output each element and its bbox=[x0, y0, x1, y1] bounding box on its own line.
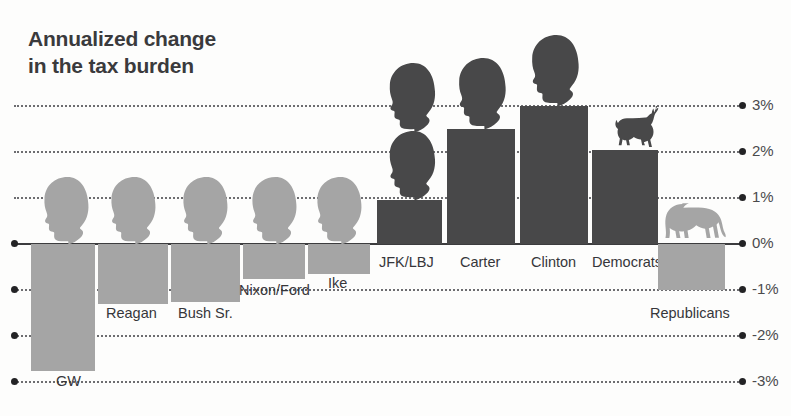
bar-label-nixon-ford: Nixon/Ford bbox=[239, 282, 310, 298]
bar-republicans[interactable] bbox=[658, 244, 725, 290]
bar-label-reagan: Reagan bbox=[106, 305, 157, 321]
bar-label-jfk-lbj: JFK/LBJ bbox=[379, 254, 434, 270]
bar-label-gw: GW bbox=[56, 373, 81, 389]
axis-tick-dot bbox=[739, 332, 746, 339]
axis-tick-dot bbox=[739, 102, 746, 109]
bar-ike[interactable] bbox=[308, 244, 370, 274]
axis-label-5: -2% bbox=[752, 326, 779, 343]
axis-label-4: -1% bbox=[752, 280, 779, 297]
axis-label-0: 3% bbox=[752, 96, 774, 113]
bar-label-democrats: Democrats bbox=[592, 254, 662, 270]
bar-clinton[interactable] bbox=[520, 106, 588, 244]
bar-democrats[interactable] bbox=[592, 150, 658, 244]
plot-area: 3%2%1%0%-1%-2%-3%GWReaganBush Sr.Nixon/F… bbox=[0, 0, 791, 416]
head-silhouette-reagan bbox=[105, 176, 163, 246]
head-silhouette-lbj bbox=[383, 62, 443, 134]
axis-tick-dot bbox=[739, 240, 746, 247]
tax-burden-chart: Annualized change in the tax burden 3%2%… bbox=[0, 0, 791, 416]
donkey-icon bbox=[613, 106, 667, 150]
bar-label-bush-sr: Bush Sr. bbox=[178, 305, 233, 321]
axis-tick-dot bbox=[739, 194, 746, 201]
axis-origin-dot bbox=[11, 240, 18, 247]
bar-bush-sr[interactable] bbox=[171, 244, 240, 302]
bar-nixon-ford[interactable] bbox=[243, 244, 305, 279]
axis-label-2: 1% bbox=[752, 188, 774, 205]
gridline-minus2pct bbox=[14, 335, 742, 337]
axis-tick-dot bbox=[739, 148, 746, 155]
bar-gw[interactable] bbox=[31, 244, 95, 371]
bar-jfk-lbj[interactable] bbox=[377, 200, 442, 244]
bar-label-clinton: Clinton bbox=[531, 254, 576, 270]
bar-label-republicans: Republicans bbox=[650, 305, 730, 321]
head-silhouette-ike bbox=[311, 176, 369, 246]
elephant-icon bbox=[663, 202, 727, 244]
head-silhouette-bush-sr bbox=[177, 176, 235, 246]
bar-reagan[interactable] bbox=[98, 244, 168, 304]
head-silhouette-clinton bbox=[525, 34, 587, 108]
bar-label-ike: Ike bbox=[328, 275, 347, 291]
axis-tick-dot-left bbox=[11, 286, 18, 293]
head-silhouette-jfk bbox=[383, 130, 443, 202]
axis-tick-dot bbox=[739, 378, 746, 385]
bar-label-carter: Carter bbox=[460, 254, 500, 270]
head-silhouette-gw bbox=[38, 176, 96, 246]
axis-label-3: 0% bbox=[752, 234, 774, 251]
bar-carter[interactable] bbox=[447, 129, 515, 244]
axis-tick-dot bbox=[739, 286, 746, 293]
axis-tick-dot-left bbox=[11, 332, 18, 339]
head-silhouette-nixon-ford bbox=[246, 176, 304, 246]
axis-tick-dot-left bbox=[11, 378, 18, 385]
axis-label-6: -3% bbox=[752, 372, 779, 389]
gridline-minus3pct bbox=[14, 381, 742, 383]
axis-label-1: 2% bbox=[752, 142, 774, 159]
head-silhouette-carter bbox=[452, 57, 514, 131]
